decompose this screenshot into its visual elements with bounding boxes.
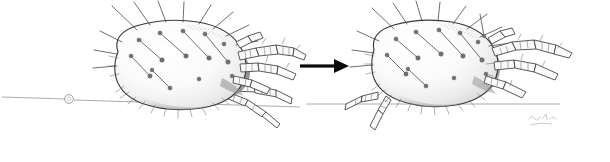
illustration-canvas [0, 0, 610, 162]
paper-background [0, 0, 610, 162]
fiber-knot [65, 95, 74, 104]
mite-left-idiosoma [115, 20, 246, 109]
arrow-shaft [300, 64, 336, 67]
mite-illustration-figure: Mite progression illustration [0, 0, 610, 162]
mite-right-idiosoma [372, 20, 498, 107]
